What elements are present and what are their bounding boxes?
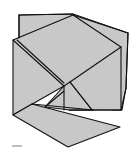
caption-mark [12,145,22,147]
polyhedron-diagram [0,0,136,155]
